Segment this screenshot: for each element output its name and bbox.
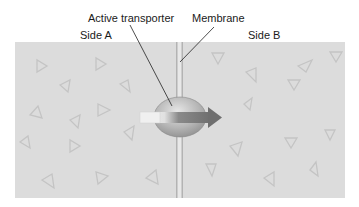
label-side-b: Side B — [248, 29, 280, 41]
active-transporter-leader — [130, 25, 172, 106]
diagram-graphics — [0, 0, 359, 207]
particles-side-b — [206, 52, 342, 186]
label-active-transporter: Active transporter — [88, 12, 174, 24]
particles-side-a — [20, 58, 158, 188]
label-membrane: Membrane — [192, 12, 245, 24]
label-side-a: Side A — [80, 29, 112, 41]
membrane-leader — [180, 27, 214, 62]
